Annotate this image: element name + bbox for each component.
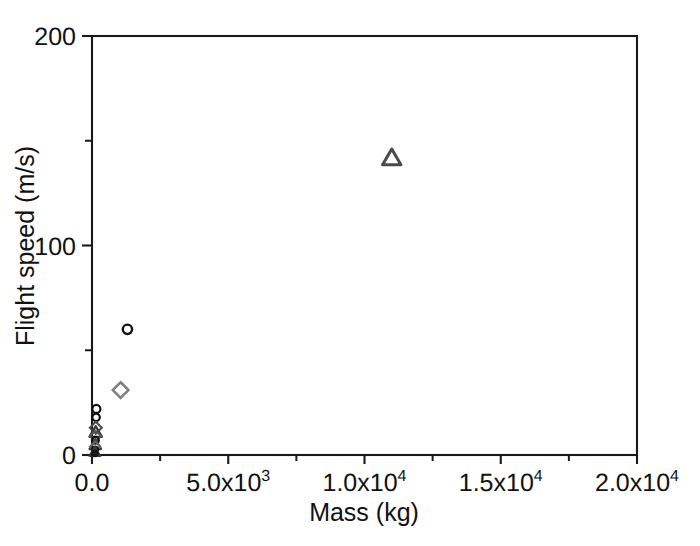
y-tick-label: 200 xyxy=(34,23,76,51)
x-tick-label: 1.0x104 xyxy=(323,468,407,497)
y-tick-label: 0 xyxy=(62,442,76,470)
figure-background xyxy=(0,0,700,546)
scatter-plot-figure: 0.05.0x1031.0x1041.5x1042.0x104 0100200 … xyxy=(0,0,700,546)
plot-canvas: 0.05.0x1031.0x1041.5x1042.0x104 0100200 … xyxy=(0,0,700,546)
x-tick-label: 2.0x104 xyxy=(595,468,679,497)
x-tick-label: 0.0 xyxy=(75,469,110,497)
y-tick-label: 100 xyxy=(34,233,76,261)
y-axis-title: Flight speed (m/s) xyxy=(11,146,39,346)
x-tick-label: 5.0x103 xyxy=(186,468,270,497)
x-axis-title: Mass (kg) xyxy=(309,498,419,526)
x-tick-label: 1.5x104 xyxy=(459,468,543,497)
